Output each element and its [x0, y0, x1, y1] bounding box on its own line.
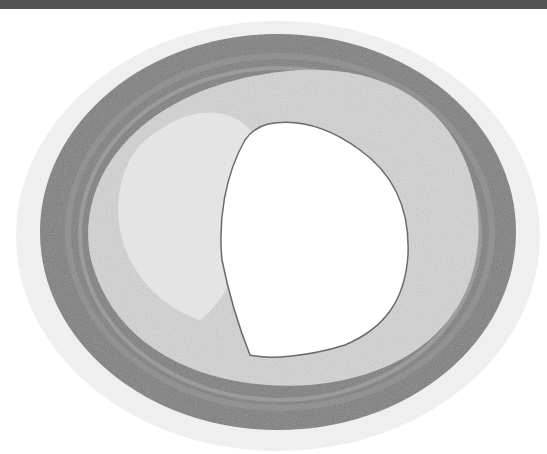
artery-cross-section	[0, 0, 547, 454]
